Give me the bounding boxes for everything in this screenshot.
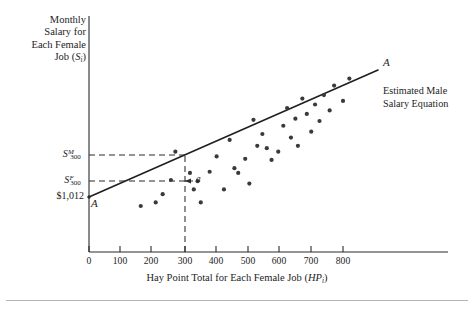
y-axis-title-line-3: Each Female: [0, 39, 86, 51]
legend-line-1: Estimated Male: [383, 84, 448, 97]
y-axis-title-close-paren: ): [83, 51, 87, 62]
legend-line-2: Salary Equation: [383, 97, 448, 110]
scatter-point: [232, 166, 236, 170]
legend-estimated-male-salary-equation: Estimated Male Salary Equation: [383, 84, 448, 110]
x-tick-label-600: 600: [264, 255, 294, 266]
x-tick-label-700: 700: [296, 255, 326, 266]
y-axis-title-job-text: Job (: [55, 51, 76, 62]
scatter-point: [199, 200, 203, 204]
line-label-right: A: [383, 56, 390, 69]
scatter-point: [169, 178, 173, 182]
scatter-point: [289, 135, 293, 139]
scatter-point: [322, 93, 326, 97]
male-salary-300-label: SM300: [16, 148, 84, 160]
female-salary-300-label: SF300: [16, 174, 84, 186]
x-tick-label-100: 100: [105, 255, 135, 266]
salary-gap-label: a: [196, 174, 201, 185]
y-axis-title-line-4: Job (Si): [0, 51, 86, 64]
scatter-point: [285, 106, 289, 110]
scatter-point: [222, 187, 226, 191]
scatter-point: [300, 97, 304, 101]
scatter-point: [276, 150, 280, 154]
scatter-point: [317, 119, 321, 123]
scatter-point: [228, 138, 232, 142]
salary-gap-arrow: [185, 178, 193, 183]
line-label-left: A: [91, 197, 98, 210]
axis-lines: [89, 16, 448, 252]
scatter-point: [173, 150, 177, 154]
scatter-point: [305, 112, 309, 116]
scatter-point: [309, 130, 313, 134]
scatter-point: [192, 187, 196, 191]
x-axis-ticks: [89, 246, 343, 252]
scatter-point: [332, 84, 336, 88]
scatter-point: [347, 76, 351, 80]
x-tick-label-0: 0: [74, 255, 104, 266]
scatter-point: [293, 117, 297, 121]
figure-bottom-rule: [6, 300, 468, 301]
x-axis-title: Hay Point Total for Each Female Job (HPi…: [0, 272, 474, 285]
y-axis-title-line-1: Monthly: [0, 14, 86, 26]
y-axis-title-line-2: Salary for: [0, 26, 86, 38]
x-tick-label-300: 300: [170, 255, 200, 266]
scatter-point: [247, 181, 251, 185]
scatter-point: [281, 124, 285, 128]
scatter-point: [188, 171, 192, 175]
scatter-point: [255, 144, 259, 148]
x-tick-label-500: 500: [233, 255, 263, 266]
male-salary-subscript: 300: [70, 153, 81, 161]
x-axis-title-close-paren: ): [324, 272, 328, 283]
scatter-point: [251, 118, 255, 122]
female-salary-subscript: 300: [70, 179, 81, 187]
x-tick-label-800: 800: [328, 255, 358, 266]
scatter-point: [296, 144, 300, 148]
estimated-male-salary-line: [89, 70, 378, 197]
scatter-point: [154, 200, 158, 204]
scatter-point: [265, 146, 269, 150]
male-salary-symbol: S: [63, 148, 68, 159]
y-axis-title: Monthly Salary for Each Female Job (Si): [0, 14, 86, 64]
x-axis-title-text: Hay Point Total for Each Female Job (: [147, 272, 309, 283]
scatter-point: [161, 192, 165, 196]
scatter-point: [215, 154, 219, 158]
scatter-point: [208, 170, 212, 174]
scatter-point: [341, 99, 345, 103]
scatter-point: [313, 102, 317, 106]
x-tick-label-200: 200: [136, 255, 166, 266]
figure-container: Monthly Salary for Each Female Job (Si) …: [0, 0, 474, 311]
scatter-point: [269, 158, 273, 162]
scatter-point: [139, 204, 143, 208]
x-tick-label-400: 400: [201, 255, 231, 266]
scatter-point: [243, 157, 247, 161]
scatter-point: [260, 132, 264, 136]
scatter-point: [328, 108, 332, 112]
reference-guide-lines: [89, 155, 186, 252]
x-axis-symbol: HP: [308, 272, 322, 283]
scatter-point: [236, 171, 240, 175]
intercept-value-label: $1,012: [8, 190, 84, 202]
